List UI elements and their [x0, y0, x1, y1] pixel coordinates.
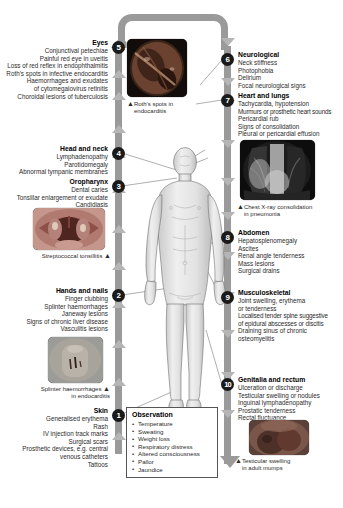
finding-item: Generalised erythema — [5, 415, 108, 423]
section-genitalia-and-rectum: Genitalia and rectum Ulceration or disch… — [238, 376, 343, 422]
section-skin: Skin Generalised erythema Rash IV inject… — [5, 407, 108, 468]
observation-heading: Observation — [127, 408, 217, 420]
section-musculoskeletal: Musculoskeletal Joint swelling, erythema… — [238, 289, 343, 343]
up-triangle-icon: ▲ — [235, 457, 242, 464]
finding-item: Conjunctival petechiae — [5, 47, 108, 55]
observation-item: Altered consciousness — [132, 450, 217, 458]
finding-item: Neck stiffness — [238, 59, 341, 67]
section-heading-genitalia-and-rectum: Genitalia and rectum — [238, 376, 343, 384]
photo-roth-spots — [127, 39, 187, 97]
section-eyes: Eyes Conjunctival petechiae Painful red … — [5, 39, 108, 100]
photo-chest-xray — [240, 140, 315, 200]
section-heading-heart-and-lungs: Heart and lungs — [238, 92, 343, 100]
photo-testicular-swelling — [249, 420, 309, 455]
badge-2[interactable]: 2 — [112, 289, 125, 302]
caption-chest-xray: ▲Chest X-ray consolidation in pneumonia — [237, 203, 337, 219]
up-triangle-icon: ▲ — [127, 100, 134, 107]
finding-item: of epidural abscesses or discitis — [238, 320, 343, 328]
section-heading-abdomen: Abdomen — [238, 229, 341, 237]
finding-item: Testicular swelling or nodules — [238, 392, 343, 400]
photo-streptococcal-tonsillitis — [33, 208, 105, 250]
section-heading-skin: Skin — [5, 407, 108, 415]
caption-roth-spots: ▲Roth's spots in endocarditis — [127, 100, 197, 116]
section-abdomen: Abdomen Hepatosplenomegaly Ascites Renal… — [238, 229, 341, 275]
observation-item: Weight loss — [132, 435, 217, 443]
finding-item: Ascites — [238, 245, 341, 253]
section-oropharynx: Oropharynx Dental caries Tonsillar enlar… — [5, 178, 108, 209]
finding-item: Delirium — [238, 74, 341, 82]
finding-item: Tonsillar enlargement or exudate — [5, 194, 108, 202]
human-body-figure — [139, 145, 231, 410]
badge-9[interactable]: 9 — [221, 291, 234, 304]
finding-item: Mass lesions — [238, 260, 341, 268]
finding-item: Prosthetic devices, e.g. central — [5, 445, 108, 453]
caption-streptococcal-tonsillitis: Streptococcal tonsillitis ▲ — [33, 252, 111, 260]
finding-item: Finger clubbing — [5, 295, 108, 303]
finding-item: Pericardial rub — [238, 115, 343, 123]
section-heart-and-lungs: Heart and lungs Tachycardia, hypotension… — [238, 92, 343, 138]
section-hands-and-nails: Hands and nails Finger clubbing Splinter… — [5, 287, 108, 333]
caption-splinter-haemorrhages: Splinter haemorrhages ▲ in endocarditis — [20, 385, 110, 401]
finding-item: Surgical drains — [238, 267, 341, 275]
finding-item: Ulceration or discharge — [238, 384, 343, 392]
observation-item: Jaundice — [132, 466, 217, 474]
badge-7[interactable]: 7 — [221, 94, 234, 107]
finding-item: Photophobia — [238, 67, 341, 75]
finding-item: Lymphadenopathy — [5, 153, 108, 161]
finding-item: Haemorrhages and exudates — [5, 77, 108, 85]
observation-item: Temperature — [132, 420, 217, 428]
diagram-canvas: 5 Eyes Conjunctival petechiae Painful re… — [0, 0, 343, 508]
caption-testicular-swelling: ▲Testicular swelling in adult mumps — [235, 457, 330, 473]
finding-item: Draining sinus of chronic — [238, 327, 343, 335]
section-heading-musculoskeletal: Musculoskeletal — [238, 289, 343, 297]
finding-item: of cytomegalovirus retinitis — [5, 85, 108, 93]
finding-item: Vasculitis lesions — [5, 325, 108, 333]
observation-list: Temperature Sweating Weight loss Respira… — [127, 420, 217, 477]
finding-item: Loss of red reflex in endophthalmitis — [5, 62, 108, 70]
finding-item: Dental caries — [5, 186, 108, 194]
finding-item: Renal angle tenderness — [238, 252, 341, 260]
photo-splinter-haemorrhages — [48, 337, 103, 383]
observation-item: Respiratory distress — [132, 443, 217, 451]
finding-item: Rash — [5, 423, 108, 431]
finding-item: Focal neurological signs — [238, 82, 341, 90]
section-heading-neurological: Neurological — [238, 51, 341, 59]
finding-item: or tenderness — [238, 305, 343, 313]
badge-6[interactable]: 6 — [221, 53, 234, 66]
up-triangle-icon: ▲ — [237, 203, 244, 210]
observation-item: Sweating — [132, 428, 217, 436]
finding-item: Splinter haemorrhages — [5, 303, 108, 311]
badge-4[interactable]: 4 — [112, 147, 125, 160]
badge-5[interactable]: 5 — [112, 41, 125, 54]
finding-item: osteomyelitis — [238, 335, 343, 343]
badge-3[interactable]: 3 — [112, 180, 125, 193]
finding-item: Choroidal lesions of tuberculosis — [5, 93, 108, 101]
section-heading-eyes: Eyes — [5, 39, 108, 47]
section-head-and-neck: Head and neck Lymphadenopathy Parotidome… — [5, 145, 108, 176]
observation-item: Pallor — [132, 458, 217, 466]
finding-item: Inguinal lymphadenopathy — [238, 399, 343, 407]
finding-item: Signs of consolidation — [238, 123, 343, 131]
badge-10[interactable]: 10 — [221, 378, 234, 391]
finding-item: Parotidomegaly — [5, 161, 108, 169]
finding-item: Prostatic tenderness — [238, 407, 343, 415]
up-triangle-icon: ▲ — [103, 385, 110, 392]
finding-item: Roth's spots in infective endocarditis — [5, 70, 108, 78]
finding-item: Murmurs or prosthetic heart sounds — [238, 108, 343, 116]
section-neurological: Neurological Neck stiffness Photophobia … — [238, 51, 341, 89]
finding-item: Hepatosplenomegaly — [238, 237, 341, 245]
section-heading-head-and-neck: Head and neck — [5, 145, 108, 153]
badge-1[interactable]: 1 — [112, 409, 125, 422]
observation-box: Observation Temperature Sweating Weight … — [126, 407, 218, 478]
finding-item: Tachycardia, hypotension — [238, 100, 343, 108]
finding-item: Surgical scars — [5, 438, 108, 446]
finding-item: Localised tender spine suggestive — [238, 312, 343, 320]
up-triangle-icon: ▲ — [104, 252, 111, 259]
finding-item: IV injection track marks — [5, 430, 108, 438]
badge-8[interactable]: 8 — [221, 231, 234, 244]
section-heading-oropharynx: Oropharynx — [5, 178, 108, 186]
finding-item: Pleural or pericardial effusion — [238, 130, 343, 138]
section-heading-hands-and-nails: Hands and nails — [5, 287, 108, 295]
finding-item: venous catheters — [5, 453, 108, 461]
finding-item: Joint swelling, erythema — [238, 297, 343, 305]
